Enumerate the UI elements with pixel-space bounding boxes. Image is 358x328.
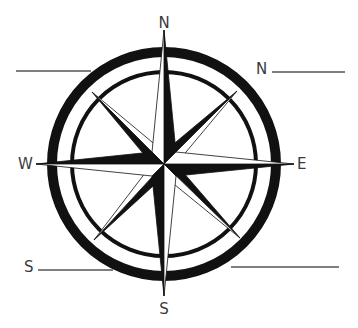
blank-prefix-bottom-left: S xyxy=(24,258,34,276)
compass-rose-diagram: N S E W N S xyxy=(0,0,358,328)
label-south: S xyxy=(159,300,169,318)
label-north: N xyxy=(158,14,169,32)
label-west: W xyxy=(18,155,33,173)
label-east: E xyxy=(297,155,306,173)
blank-prefix-top-right: N xyxy=(256,60,267,78)
